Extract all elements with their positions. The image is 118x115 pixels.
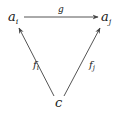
label-fj: fj (88, 59, 96, 72)
commutative-diagram: ai aj c g fi fj (0, 0, 118, 115)
arrow-fj (64, 28, 100, 96)
node-c: c (55, 95, 63, 110)
label-g: g (58, 4, 64, 14)
node-ai: ai (8, 9, 19, 26)
node-aj: aj (101, 9, 112, 26)
label-fi: fi (32, 59, 39, 72)
